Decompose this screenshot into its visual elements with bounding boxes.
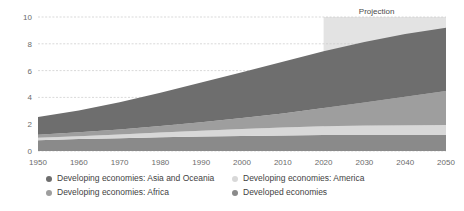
x-axis-tick-label: 2010	[274, 158, 292, 167]
y-axis-tick-label: 4	[28, 93, 33, 102]
y-axis-tick-label: 0	[28, 147, 33, 156]
legend-item-label: Developed economies	[243, 186, 327, 199]
legend-item[interactable]: Developing economies: Asia and Oceania	[46, 172, 214, 185]
y-axis-tick-label: 6	[28, 67, 33, 76]
x-axis-tick-label: 2040	[396, 158, 414, 167]
y-axis-tick-label: 2	[28, 120, 33, 129]
legend-item[interactable]: Developing economies: Africa	[46, 186, 214, 199]
x-axis-tick-label: 2000	[233, 158, 251, 167]
chart-legend: Developing economies: Asia and Oceania D…	[0, 172, 464, 206]
legend-column-left: Developing economies: Asia and Oceania D…	[46, 172, 214, 200]
x-axis-tick-labels: 1950196019701980199020002010202020302040…	[29, 158, 455, 167]
stacked-area-chart: 0246810 19501960197019801990200020102020…	[0, 0, 464, 211]
x-axis-tick-label: 2050	[437, 158, 455, 167]
legend-item-label: Developing economies: Asia and Oceania	[57, 172, 214, 185]
legend-swatch-icon	[232, 176, 238, 182]
area-series-group	[38, 28, 446, 151]
projection-label: Projection	[359, 7, 395, 16]
chart-annotations: Projection	[359, 7, 395, 16]
legend-item-label: Developing economies: Africa	[57, 186, 169, 199]
x-axis-tick-label: 1980	[152, 158, 170, 167]
legend-swatch-icon	[46, 176, 52, 182]
legend-swatch-icon	[46, 190, 52, 196]
x-axis-tick-label: 1950	[29, 158, 47, 167]
x-axis-tick-label: 1990	[192, 158, 210, 167]
x-axis-tick-label: 2030	[356, 158, 374, 167]
legend-column-right: Developing economies: America Developed …	[232, 172, 364, 200]
legend-item[interactable]: Developed economies	[232, 186, 364, 199]
legend-swatch-icon	[232, 190, 238, 196]
x-axis-tick-label: 2020	[315, 158, 333, 167]
y-axis-tick-label: 10	[23, 13, 32, 22]
y-axis-tick-label: 8	[28, 40, 33, 49]
y-axis-tick-labels: 0246810	[23, 13, 32, 156]
legend-item-label: Developing economies: America	[243, 172, 364, 185]
x-axis-tick-label: 1970	[111, 158, 129, 167]
legend-item[interactable]: Developing economies: America	[232, 172, 364, 185]
x-axis-tick-label: 1960	[70, 158, 88, 167]
